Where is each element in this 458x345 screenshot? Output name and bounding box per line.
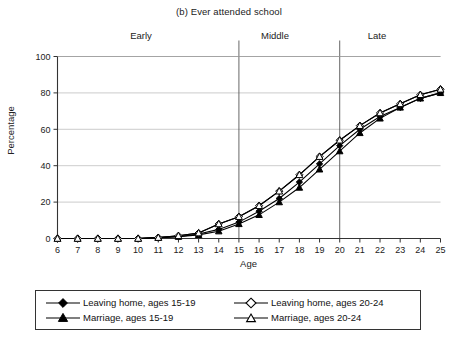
svg-text:18: 18: [294, 245, 304, 255]
svg-text:0: 0: [45, 234, 50, 244]
svg-text:21: 21: [355, 245, 365, 255]
svg-text:13: 13: [194, 245, 204, 255]
svg-text:40: 40: [40, 161, 50, 171]
svg-text:23: 23: [395, 245, 405, 255]
legend-label: Leaving home, ages 15-19: [83, 297, 196, 308]
svg-text:15: 15: [234, 245, 244, 255]
legend-item: Marriage, ages 15-19: [44, 310, 196, 325]
legend-column-right: Leaving home, ages 20-24 Marriage, ages …: [232, 295, 384, 325]
x-axis-ticks: 678910111213141516171819202122232425: [55, 239, 446, 255]
svg-text:11: 11: [154, 245, 163, 255]
svg-text:22: 22: [375, 245, 385, 255]
legend-item: Leaving home, ages 20-24: [232, 295, 384, 310]
legend-item: Leaving home, ages 15-19: [44, 295, 196, 310]
svg-text:24: 24: [415, 245, 425, 255]
svg-text:10: 10: [133, 245, 143, 255]
legend-column-left: Leaving home, ages 15-19 Marriage, ages …: [44, 295, 196, 325]
chart-legend: Leaving home, ages 15-19 Marriage, ages …: [35, 290, 421, 330]
svg-text:14: 14: [214, 245, 224, 255]
svg-text:12: 12: [173, 245, 183, 255]
svg-text:6: 6: [55, 245, 60, 255]
svg-text:17: 17: [274, 245, 284, 255]
svg-text:60: 60: [40, 125, 50, 135]
legend-label: Leaving home, ages 20-24: [271, 297, 384, 308]
svg-text:20: 20: [335, 245, 345, 255]
svg-text:80: 80: [40, 88, 50, 98]
plot-area: 020406080100 678910111213141516171819202…: [0, 0, 458, 280]
legend-label: Marriage, ages 20-24: [271, 312, 361, 323]
svg-text:7: 7: [75, 245, 80, 255]
grid-lines: [58, 57, 441, 203]
legend-label: Marriage, ages 15-19: [83, 312, 173, 323]
filled-triangle-icon: [44, 311, 82, 325]
svg-text:8: 8: [95, 245, 100, 255]
legend-item: Marriage, ages 20-24: [232, 310, 384, 325]
svg-text:16: 16: [254, 245, 264, 255]
open-triangle-icon: [232, 311, 270, 325]
chart-figure: (b) Ever attended school Early Middle La…: [0, 0, 458, 345]
svg-text:19: 19: [315, 245, 325, 255]
filled-diamond-icon: [44, 296, 82, 310]
svg-text:9: 9: [115, 245, 120, 255]
y-axis-ticks: 020406080100: [35, 52, 57, 244]
svg-text:100: 100: [35, 52, 50, 62]
data-series-layer: [54, 86, 444, 242]
svg-text:25: 25: [435, 245, 445, 255]
svg-text:20: 20: [40, 197, 50, 207]
open-diamond-icon: [232, 296, 270, 310]
